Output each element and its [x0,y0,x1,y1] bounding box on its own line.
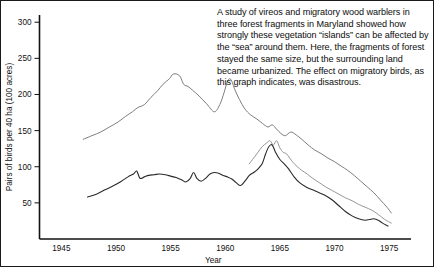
y-axis-title: Pairs of birds per 40 ha (100 acres) [5,63,14,192]
x-axis-title: Year [205,256,222,265]
series-line-1 [83,74,391,213]
y-tick-label: 100 [18,163,32,172]
y-tick-label: 150 [18,127,32,136]
x-tick-label: 1955 [162,244,181,253]
y-tick-label: 250 [18,54,32,63]
y-tick-label: 300 [18,18,32,27]
x-tick-label: 1960 [216,244,235,253]
x-tick-label: 1975 [380,244,399,253]
chart-axis-titles: YearPairs of birds per 40 ha (100 acres) [5,63,222,265]
x-axis-ticks: 1945195019551960196519701975 [52,244,398,253]
chart-series-group [83,74,391,226]
y-tick-label: 200 [18,90,32,99]
y-tick-label: 50 [22,199,32,208]
x-tick-label: 1965 [271,244,290,253]
x-tick-label: 1950 [107,244,126,253]
caption-text: A study of vireos and migratory wood war… [217,7,429,89]
y-axis-ticks: 50100150200250300 [18,18,40,208]
x-tick-label: 1945 [52,244,71,253]
x-tick-label: 1970 [325,244,344,253]
figure-panel: 50100150200250300 1945195019551960196519… [0,0,434,267]
series-line-3 [88,145,388,226]
